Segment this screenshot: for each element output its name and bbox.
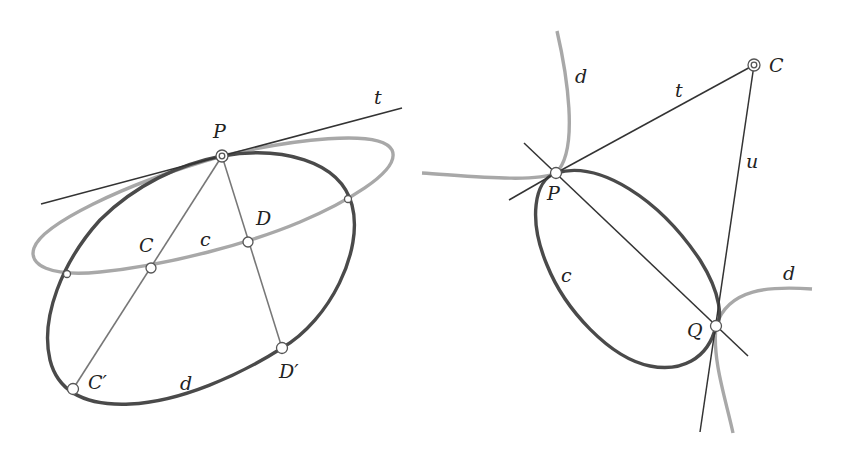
line-u-C-through-Q (700, 65, 754, 432)
point-D (243, 237, 253, 247)
label-d-top: d (575, 65, 587, 87)
point-D-prime (277, 343, 288, 354)
label-c: c (200, 228, 211, 250)
point-C-prime (68, 384, 79, 395)
point-P (551, 168, 562, 179)
label-C: C (139, 234, 154, 256)
label-d-right: d (783, 262, 795, 284)
label-Q: Q (687, 319, 703, 341)
conic-d-gray-branch-lower-right (715, 288, 812, 433)
line-P-D-Dprime (222, 156, 282, 348)
point-C (146, 263, 156, 273)
point-Q (711, 321, 722, 332)
diagram-canvas: t P D C c C′ d D′ d t C u P c (0, 0, 841, 451)
left-figure: t P D C c C′ d D′ (33, 86, 402, 404)
label-P: P (546, 182, 561, 204)
label-C-prime: C′ (88, 371, 108, 393)
label-u: u (746, 150, 758, 172)
conic-d-gray-branch-upper-left (422, 31, 569, 178)
label-D-prime: D′ (278, 360, 299, 382)
label-t: t (675, 79, 683, 101)
label-t: t (374, 86, 382, 108)
label-c: c (561, 264, 572, 286)
intersection-point-left (64, 271, 71, 278)
point-P-double-circle-inner (219, 153, 225, 159)
label-P: P (212, 120, 227, 142)
point-C-double-circle-inner (751, 62, 757, 68)
right-figure: d t C u P c Q d (422, 31, 812, 433)
label-C: C (769, 54, 784, 76)
label-d: d (180, 372, 192, 394)
intersection-point-right (345, 196, 352, 203)
label-D: D (255, 207, 271, 229)
